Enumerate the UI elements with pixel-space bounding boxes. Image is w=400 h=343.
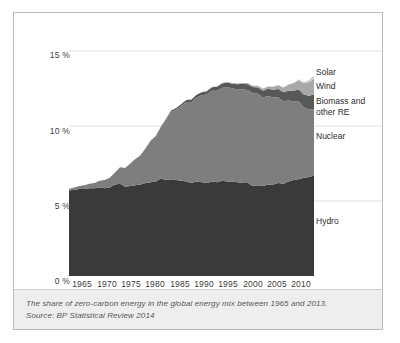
figure-panel: 15 % 10 % 5 % 0 % 1965 1970 1975 1980 19… [13,12,383,330]
legend-label-hydro: Hydro [316,216,339,227]
legend-label-biomass-line2: other RE [316,107,350,118]
legend-label-nuclear: Nuclear [316,131,345,142]
legend-label-solar: Solar [316,67,336,78]
caption-line-2: Source: BP Statistical Review 2014 [26,311,155,320]
caption-box: The share of zero-carbon energy in the g… [14,289,382,329]
caption-line-1: The share of zero-carbon energy in the g… [26,299,327,308]
y-tick-10: 10 % [36,126,70,136]
y-tick-15: 15 % [36,50,70,60]
legend-label-biomass-line1: Biomass and [316,96,365,107]
x-tick-2010: 2010 [284,279,318,289]
area-series-hydro [69,176,314,277]
area-series-nuclear [69,87,314,191]
chart-plot-area: 15 % 10 % 5 % 0 % 1965 1970 1975 1980 19… [14,13,382,289]
y-tick-5: 5 % [36,201,70,211]
legend-label-wind: Wind [316,81,335,92]
